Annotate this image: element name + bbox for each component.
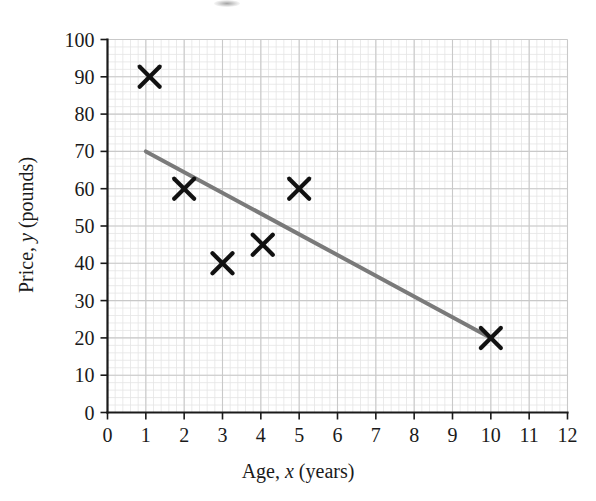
- scan-artifact-smudge: [214, 0, 240, 7]
- trend-line: [146, 151, 491, 338]
- y-tick-label: 100: [65, 29, 95, 51]
- scatter-plot-figure: 0123456789101112 0102030405060708090100 …: [0, 0, 596, 501]
- y-axis-tick-labels: 0102030405060708090100: [65, 29, 95, 424]
- x-axis-title-before: Age,: [242, 460, 280, 483]
- x-tick-label: 3: [218, 424, 228, 446]
- x-axis-title: Age, x (years): [242, 460, 355, 483]
- x-tick-label: 8: [409, 424, 419, 446]
- y-tick-label: 70: [75, 140, 95, 162]
- y-tick-label: 80: [75, 103, 95, 125]
- x-tick-label: 0: [103, 424, 113, 446]
- y-tick-label: 40: [75, 252, 95, 274]
- x-tick-label: 6: [333, 424, 343, 446]
- y-tick-label: 30: [75, 290, 95, 312]
- svg-text:Price, y (pounds): Price, y (pounds): [15, 157, 38, 293]
- data-point-marker: [253, 235, 273, 255]
- y-axis-title-before: Price,: [15, 247, 37, 293]
- plot-canvas: 0123456789101112 0102030405060708090100 …: [0, 0, 596, 501]
- x-axis-title-variable: x: [284, 460, 294, 482]
- x-tick-label: 12: [558, 424, 578, 446]
- x-axis-tick-labels: 0123456789101112: [103, 424, 578, 446]
- y-axis-title: Price, y (pounds): [15, 157, 38, 293]
- x-tick-label: 2: [179, 424, 189, 446]
- svg-text:Age, x (years): Age, x (years): [242, 460, 355, 483]
- y-tick-label: 20: [75, 327, 95, 349]
- x-tick-label: 11: [520, 424, 539, 446]
- y-axis-title-after: (pounds): [15, 157, 38, 228]
- x-tick-label: 5: [294, 424, 304, 446]
- y-tick-label: 10: [75, 364, 95, 386]
- axis-ticks: [101, 40, 568, 420]
- y-tick-label: 50: [75, 215, 95, 237]
- y-axis-title-variable: y: [15, 233, 38, 244]
- x-tick-label: 4: [256, 424, 266, 446]
- y-tick-label: 90: [75, 66, 95, 88]
- data-point-markers: [140, 67, 501, 348]
- y-tick-label: 0: [85, 402, 95, 424]
- x-tick-label: 10: [481, 424, 501, 446]
- x-tick-label: 9: [448, 424, 458, 446]
- x-axis-title-after: (years): [299, 460, 355, 483]
- x-tick-label: 1: [141, 424, 151, 446]
- y-tick-label: 60: [75, 178, 95, 200]
- line-of-best-fit: [146, 151, 491, 338]
- x-tick-label: 7: [371, 424, 381, 446]
